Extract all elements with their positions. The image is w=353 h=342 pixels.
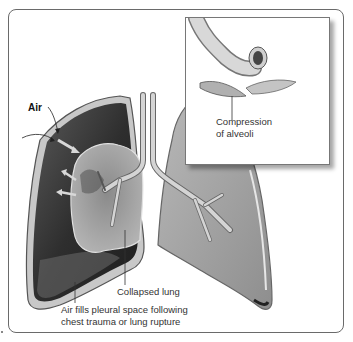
pleural-label-line1: Air fills pleural space following xyxy=(61,304,188,316)
stray-mark xyxy=(1,331,3,333)
alveoli-inset xyxy=(185,17,330,165)
collapsed-lung-label: Collapsed lung xyxy=(117,286,180,298)
bronchiole-illustration xyxy=(186,18,329,164)
air-label: Air xyxy=(28,102,42,113)
pleural-label-line2: chest trauma or lung rupture xyxy=(61,316,180,328)
collapsed-lung xyxy=(71,144,143,253)
compression-label-line2: of alveoli xyxy=(216,128,254,140)
compression-label-line1: Compression xyxy=(216,116,272,128)
